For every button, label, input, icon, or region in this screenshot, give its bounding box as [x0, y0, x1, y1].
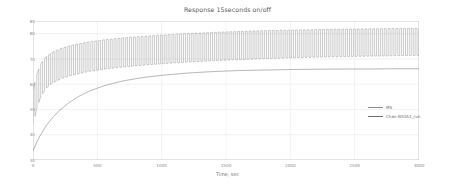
chart-figure: Response 15seconds on/off Temperature, °… — [0, 0, 455, 189]
plot-area — [33, 21, 419, 160]
x-tick-label: 1500 — [214, 163, 238, 168]
legend-color-swatch — [368, 107, 383, 108]
legend-color-swatch — [368, 116, 383, 117]
chart-legend: MSChan NS3A1_run — [368, 103, 452, 121]
legend-item[interactable]: Chan NS3A1_run — [368, 112, 452, 121]
x-tick-label: 3000 — [407, 163, 431, 168]
x-axis-label: Time, sec — [0, 172, 455, 177]
legend-label: Chan NS3A1_run — [386, 114, 420, 119]
legend-item[interactable]: MS — [368, 103, 452, 112]
plot-canvas — [33, 21, 419, 160]
x-tick-label: 1000 — [150, 163, 174, 168]
x-tick-label: 500 — [85, 163, 109, 168]
chart-title: Response 15seconds on/off — [0, 6, 455, 13]
x-tick-label: 0 — [21, 163, 45, 168]
x-tick-label: 2000 — [278, 163, 302, 168]
legend-label: MS — [386, 105, 392, 110]
x-tick-label: 2500 — [343, 163, 367, 168]
